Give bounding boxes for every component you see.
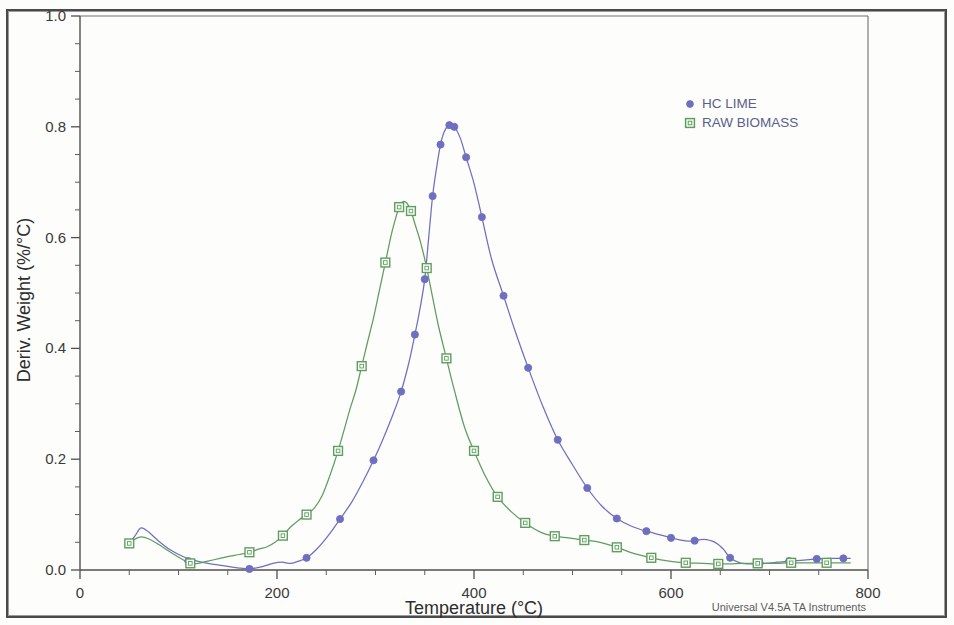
data-point-marker: [727, 554, 734, 561]
data-point-marker: [279, 531, 288, 540]
y-tick-label: 0.2: [45, 450, 66, 467]
data-point-marker: [840, 555, 847, 562]
data-point-marker: [500, 292, 507, 299]
data-point-marker: [398, 388, 405, 395]
data-point-marker: [647, 553, 656, 562]
footer-attribution: Universal V4.5A TA Instruments: [712, 601, 867, 613]
data-point-marker: [463, 154, 470, 161]
data-point-marker: [245, 548, 254, 557]
data-point-marker: [550, 532, 559, 541]
data-point-marker: [429, 192, 436, 199]
data-point-marker: [470, 446, 479, 455]
data-point-marker: [714, 560, 723, 569]
data-point-marker: [186, 559, 195, 568]
data-point-marker: [525, 364, 532, 371]
data-point-marker: [612, 543, 621, 552]
data-point-marker: [334, 446, 343, 455]
data-markers-group: [125, 122, 847, 573]
series-line-hc-lime: [129, 125, 850, 569]
data-point-marker: [381, 258, 390, 267]
legend-marker-filled-circle: [687, 101, 694, 108]
data-point-marker: [787, 558, 796, 567]
data-point-marker: [613, 515, 620, 522]
data-point-marker: [302, 510, 311, 519]
data-point-marker: [667, 534, 674, 541]
y-tick-label: 0.0: [45, 561, 66, 578]
data-point-marker: [521, 519, 530, 528]
y-tick-label: 0.8: [45, 118, 66, 135]
chart-legend: HC LIMERAW BIOMASS: [686, 96, 799, 130]
y-tick-label: 1.0: [45, 7, 66, 24]
data-point-marker: [554, 436, 561, 443]
y-axis-title: Deriv. Weight (%/°C): [14, 218, 34, 383]
x-tick-label: 200: [264, 584, 289, 601]
y-axis-ticks: [71, 16, 80, 570]
data-point-marker: [246, 565, 253, 572]
data-series-group: [129, 125, 850, 569]
data-point-marker: [411, 331, 418, 338]
data-point-marker: [813, 555, 820, 562]
data-point-marker: [691, 537, 698, 544]
chart-canvas: 0.00.20.40.60.81.0 0200400600800 HC LIME…: [0, 0, 954, 625]
data-point-marker: [442, 354, 451, 363]
data-point-marker: [395, 203, 404, 212]
data-point-marker: [357, 362, 366, 371]
x-axis-title: Temperature (°C): [405, 598, 543, 618]
series-line-raw-biomass: [129, 201, 850, 564]
x-tick-label: 600: [658, 584, 683, 601]
data-point-marker: [822, 558, 831, 567]
x-tick-label: 0: [76, 584, 84, 601]
x-tick-label: 800: [855, 584, 880, 601]
data-point-marker: [493, 492, 502, 501]
legend-label: RAW BIOMASS: [702, 115, 798, 130]
data-point-marker: [580, 536, 589, 545]
data-point-marker: [451, 123, 458, 130]
data-point-marker: [336, 515, 343, 522]
y-axis-tick-labels: 0.00.20.40.60.81.0: [45, 7, 66, 578]
data-point-marker: [407, 207, 416, 216]
data-point-marker: [478, 214, 485, 221]
data-point-marker: [643, 528, 650, 535]
chart-page: 0.00.20.40.60.81.0 0200400600800 HC LIME…: [0, 0, 954, 625]
legend-marker-open-square: [686, 119, 695, 128]
data-point-marker: [303, 554, 310, 561]
x-axis-ticks: [80, 570, 868, 579]
data-point-marker: [681, 558, 690, 567]
y-tick-label: 0.4: [45, 339, 66, 356]
data-point-marker: [753, 559, 762, 568]
data-point-marker: [437, 141, 444, 148]
data-point-marker: [584, 484, 591, 491]
data-point-marker: [370, 457, 377, 464]
y-tick-label: 0.6: [45, 229, 66, 246]
legend-label: HC LIME: [702, 96, 757, 111]
dtg-chart: 0.00.20.40.60.81.0 0200400600800 HC LIME…: [0, 0, 954, 625]
data-point-marker: [422, 264, 431, 273]
data-point-marker: [421, 276, 428, 283]
data-point-marker: [125, 539, 134, 548]
